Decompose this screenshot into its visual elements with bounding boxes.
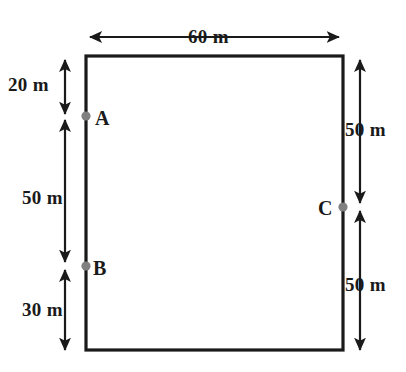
- point-label-c: C: [318, 198, 332, 218]
- point-marker-c: [338, 202, 347, 211]
- diagram-canvas: 60 m 20 m 50 m 30 m 50 m 50 m A B C: [0, 0, 406, 372]
- dimension-label-right-upper: 50 m: [345, 120, 386, 139]
- dimension-label-top-width: 60 m: [188, 27, 229, 46]
- point-marker-b: [81, 261, 90, 270]
- point-marker-a: [81, 111, 90, 120]
- point-label-b: B: [93, 258, 106, 278]
- dimension-label-left-lower: 30 m: [22, 300, 63, 319]
- dimension-label-left-middle: 50 m: [22, 188, 63, 207]
- point-label-a: A: [95, 108, 109, 128]
- dimension-label-right-lower: 50 m: [345, 275, 386, 294]
- dimension-label-left-upper: 20 m: [8, 75, 49, 94]
- plot-rectangle: [86, 56, 343, 350]
